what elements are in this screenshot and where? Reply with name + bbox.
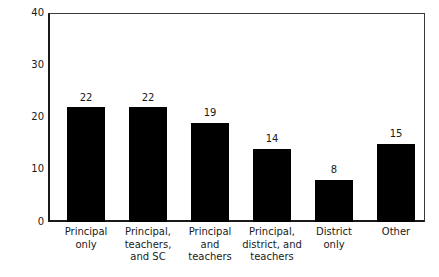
bar-value-label: 15 bbox=[377, 128, 415, 139]
bar[interactable] bbox=[377, 144, 415, 222]
bar-chart-figure: Percentage 40 30 20 10 0 22 22 19 14 8 bbox=[0, 0, 439, 277]
bar-value-label: 14 bbox=[253, 133, 291, 144]
bar-group-other: 15 bbox=[377, 13, 415, 222]
y-axis-tick-labels: 40 30 20 10 0 bbox=[0, 0, 44, 277]
x-axis-category-labels: Principal only Principal, teachers, and … bbox=[48, 226, 425, 277]
bar[interactable] bbox=[191, 123, 229, 222]
y-tick-label-10: 10 bbox=[4, 164, 44, 174]
bar[interactable] bbox=[129, 107, 167, 222]
bar-group-principal-teachers-sc: 22 bbox=[129, 13, 167, 222]
bar-group-principal-district-teachers: 14 bbox=[253, 13, 291, 222]
bar[interactable] bbox=[253, 149, 291, 222]
bar-value-label: 19 bbox=[191, 107, 229, 118]
bar-group-principal-only: 22 bbox=[67, 13, 105, 222]
bar-value-label: 8 bbox=[315, 164, 353, 175]
y-tick-label-0: 0 bbox=[4, 217, 44, 227]
y-tick-label-30: 30 bbox=[4, 60, 44, 70]
bar-value-label: 22 bbox=[67, 92, 105, 103]
x-label-line: only bbox=[296, 239, 372, 252]
y-tick-label-40: 40 bbox=[4, 8, 44, 18]
bar-group-district-only: 8 bbox=[315, 13, 353, 222]
x-label-line: Other bbox=[358, 226, 434, 239]
x-label-line: teachers bbox=[232, 251, 312, 264]
bar[interactable] bbox=[67, 107, 105, 222]
bar[interactable] bbox=[315, 180, 353, 222]
bar-group-principal-and-teachers: 19 bbox=[191, 13, 229, 222]
x-label-other: Other bbox=[358, 226, 434, 239]
bars-layer: 22 22 19 14 8 15 bbox=[48, 13, 425, 222]
bar-value-label: 22 bbox=[129, 92, 167, 103]
y-tick-label-20: 20 bbox=[4, 112, 44, 122]
